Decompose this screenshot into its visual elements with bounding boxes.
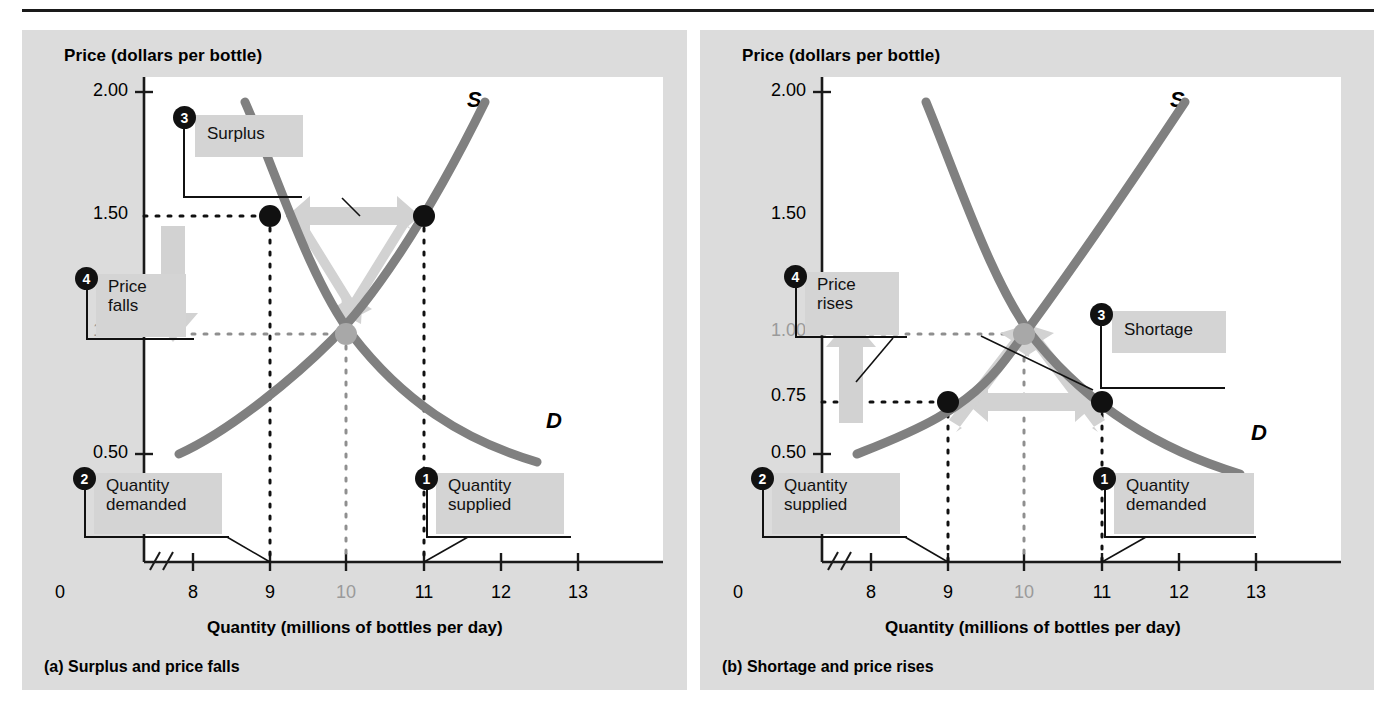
panel-b-callout-price-rises-badge: 4 <box>784 265 807 288</box>
panel-a-callout-price-falls-label: Price falls <box>96 274 186 337</box>
panel-b-callout-quantity-supplied-label: Quantity supplied <box>772 473 900 534</box>
panel-a: Price (dollars per bottle) 2.00 1.50 1.0… <box>22 30 687 690</box>
panel-b-leader-quantity-demanded <box>1102 537 1146 562</box>
panel-b-point-quantity-demanded <box>1091 391 1113 413</box>
panel-b-point-quantity-supplied <box>937 391 959 413</box>
panel-a-leader-quantity-falls <box>424 537 468 562</box>
figure-root: Price (dollars per bottle) 2.00 1.50 1.0… <box>0 0 1396 715</box>
panel-b-callout-quantity-demanded-label: Quantity demanded <box>1114 473 1254 534</box>
panel-b-graphics <box>700 30 1374 690</box>
panel-a-point-quantity-demanded <box>259 205 281 227</box>
top-rule <box>22 9 1374 12</box>
panel-b-callout-price-rises-label: Price rises <box>805 272 899 335</box>
panel-a-callout-price-falls-badge: 4 <box>75 267 98 290</box>
panel-a-converge-arrows <box>292 222 412 324</box>
panel-a-callout-surplus-label: Surplus <box>195 115 303 157</box>
panel-b-demand-curve <box>926 102 1240 474</box>
panel-a-callout-quantity-demanded-label: Quantity demanded <box>94 473 222 534</box>
panel-b-callout-shortage-badge: 3 <box>1090 303 1113 326</box>
panel-b-point-equilibrium <box>1013 323 1035 345</box>
panel-a-leader-quantity-demanded <box>227 537 270 562</box>
panel-b-callout-quantity-demanded-badge: 1 <box>1093 467 1116 490</box>
panel-a-callout-quantity-demanded-badge: 2 <box>73 467 96 490</box>
panel-a-point-equilibrium <box>335 323 357 345</box>
panel-b-callout-quantity-supplied-badge: 2 <box>751 467 774 490</box>
panel-a-callout-surplus-badge: 3 <box>173 106 196 129</box>
panel-b-leader-quantity-supplied <box>905 537 948 562</box>
panel-a-callout-quantity-supplied-badge: 1 <box>415 467 438 490</box>
panel-a-graphics <box>22 30 687 690</box>
panel-a-point-quantity-supplied <box>413 205 435 227</box>
panel-b-callout-shortage-label: Shortage <box>1112 311 1226 353</box>
panel-a-callout-quantity-supplied-label: Quantity supplied <box>436 473 564 534</box>
panel-b: Price (dollars per bottle) 2.00 1.50 1.0… <box>700 30 1374 690</box>
